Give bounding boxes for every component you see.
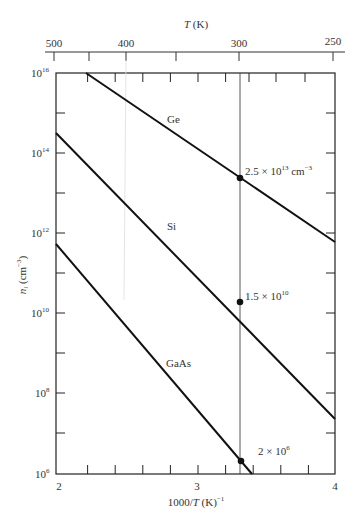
top-axis [45, 52, 345, 61]
y-tick-label-12: 1012 [31, 226, 50, 239]
y-tick-label-14: 1014 [31, 146, 50, 159]
top-tick-label-400: 400 [118, 37, 135, 49]
series-line-ge [86, 73, 335, 242]
scan-artifact [124, 60, 126, 300]
bottom-ticks [88, 465, 309, 474]
annotation-gaas: 2 × 106 [258, 444, 290, 457]
y-tick-label-10: 1010 [31, 306, 50, 319]
annotation-si: 1.5 × 1010 [245, 289, 289, 302]
top-tick-label-300: 300 [231, 37, 248, 49]
x-tick-label-2: 2 [56, 480, 62, 492]
top-tick-label-250: 250 [325, 35, 342, 47]
y-tick-label-6: 106 [35, 467, 50, 480]
left-ticks [56, 113, 65, 433]
plot-frame [56, 73, 335, 474]
data-point-ge-300k [237, 175, 244, 182]
top-axis-title: T (K) [184, 18, 208, 31]
series-label-ge: Ge [167, 113, 180, 125]
series-label-si: Si [167, 220, 176, 232]
x-axis-title: 1000/T (K)−1 [168, 495, 225, 509]
annotation-ge: 2.5 × 1013 cm−3 [245, 164, 313, 177]
y-tick-label-8: 108 [35, 386, 50, 399]
right-ticks [326, 113, 335, 433]
series-label-gaas: GaAs [166, 357, 191, 369]
data-point-gaas-300k [238, 458, 245, 465]
series-line-gaas [56, 244, 252, 474]
x-tick-label-3: 3 [194, 480, 200, 492]
data-point-si-300k [237, 299, 244, 306]
top-tick-label-500: 500 [46, 37, 63, 49]
top-frame-ticks [88, 73, 305, 82]
y-tick-labels: 1016 1014 1012 1010 108 106 [31, 66, 50, 480]
chart: 500 400 300 250 T (K) [0, 0, 359, 529]
y-tick-label-16: 1016 [31, 66, 50, 79]
x-tick-label-4: 4 [332, 480, 338, 492]
y-axis-title: ni (cm−3) [15, 255, 30, 294]
